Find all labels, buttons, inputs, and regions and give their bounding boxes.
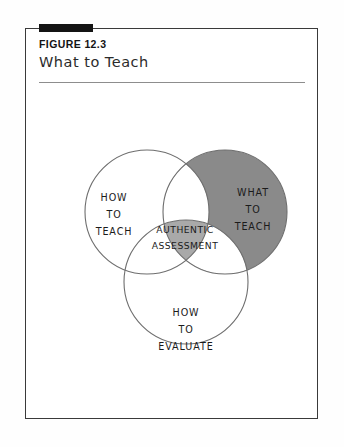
how-to-teach-label-line-2: TO bbox=[105, 209, 121, 220]
figure-tab-bar bbox=[39, 24, 93, 32]
how-to-evaluate-label-line-2: TO bbox=[177, 324, 193, 335]
how-to-teach-label: HOW TO TEACH bbox=[95, 192, 133, 237]
authentic-assessment-label-line-1: AUTHENTIC bbox=[156, 224, 213, 235]
how-to-teach-label-line-3: TEACH bbox=[95, 226, 133, 237]
what-to-teach-label-line-2: TO bbox=[244, 204, 260, 215]
what-to-teach-label-line-1: WHAT bbox=[237, 187, 269, 198]
authentic-assessment-label-line-2: ASSESSMENT bbox=[152, 240, 219, 251]
how-to-teach-label-line-1: HOW bbox=[101, 192, 128, 203]
what-to-teach-label-line-3: TEACH bbox=[234, 221, 272, 232]
header-divider-rule bbox=[39, 82, 305, 83]
venn-diagram-svg: HOW TO TEACH WHAT TO TEACH HOW TO EVALUA… bbox=[25, 130, 318, 390]
how-to-evaluate-label: HOW TO EVALUATE bbox=[158, 307, 213, 352]
figure-header: FIGURE 12.3 What to Teach bbox=[39, 38, 307, 72]
figure-number-label: FIGURE 12.3 bbox=[39, 38, 307, 50]
how-to-evaluate-label-line-3: EVALUATE bbox=[158, 341, 213, 352]
how-to-evaluate-label-line-1: HOW bbox=[173, 307, 200, 318]
figure-title: What to Teach bbox=[39, 53, 307, 72]
venn-diagram: HOW TO TEACH WHAT TO TEACH HOW TO EVALUA… bbox=[25, 130, 318, 390]
figure-page: FIGURE 12.3 What to Teach bbox=[0, 0, 344, 447]
